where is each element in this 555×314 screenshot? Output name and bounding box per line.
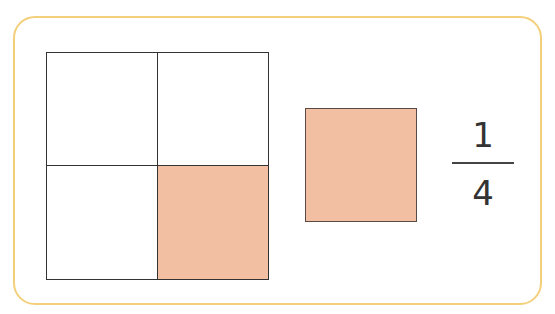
grid-cell-bottom-left — [47, 166, 158, 279]
grid-cell-top-right — [158, 53, 269, 166]
fraction-numerator: 1 — [452, 118, 514, 158]
fraction-denominator: 4 — [452, 176, 514, 210]
fraction-bar — [452, 162, 514, 164]
quarter-grid — [46, 52, 269, 280]
shaded-part-square — [305, 108, 417, 222]
grid-cell-top-left — [47, 53, 158, 166]
fraction: 1 4 — [452, 118, 514, 210]
grid-cell-bottom-right-shaded — [158, 166, 269, 279]
